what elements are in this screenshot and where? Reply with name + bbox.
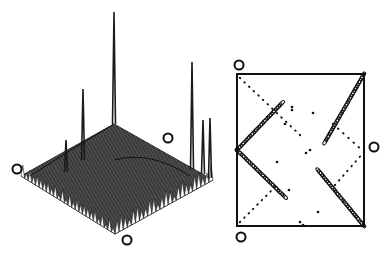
stacked-3d-plot bbox=[13, 12, 214, 245]
contour-peak bbox=[337, 179, 340, 182]
corner-marker-top-left bbox=[235, 61, 244, 70]
contour-peak bbox=[238, 220, 241, 223]
corner-marker-left bbox=[13, 165, 22, 174]
contour-peak bbox=[252, 90, 255, 93]
contour-peak bbox=[257, 94, 260, 97]
peak-spike bbox=[191, 62, 194, 170]
contour-peak bbox=[238, 76, 241, 79]
cross-peak bbox=[291, 106, 294, 109]
contour-peak bbox=[269, 190, 272, 193]
contour-peak bbox=[337, 127, 340, 130]
contour-peaks bbox=[234, 71, 366, 228]
contour-peak bbox=[260, 198, 263, 201]
corner-marker-right bbox=[164, 134, 173, 143]
cross-peak bbox=[309, 149, 312, 152]
contour-peak bbox=[298, 133, 301, 136]
contour-peak bbox=[243, 81, 246, 84]
contour-peak bbox=[350, 164, 353, 167]
contour-peak bbox=[358, 155, 361, 158]
contour-peak bbox=[354, 160, 357, 163]
contour-peak bbox=[280, 116, 283, 119]
cross-peak bbox=[299, 221, 302, 224]
contour-peak bbox=[294, 129, 297, 132]
corner-marker-bottom-left bbox=[237, 233, 246, 242]
figure-canvas bbox=[0, 0, 390, 257]
contour-peak bbox=[347, 136, 350, 139]
corner-marker-right bbox=[370, 143, 379, 152]
contour-peak bbox=[265, 194, 268, 197]
peak-spike bbox=[202, 120, 205, 174]
contour-peak bbox=[243, 216, 246, 219]
cross-peak bbox=[302, 224, 305, 227]
contour-peak bbox=[357, 146, 360, 149]
cross-peak bbox=[284, 123, 287, 126]
contour-peak bbox=[247, 212, 250, 215]
cross-peak bbox=[312, 112, 315, 115]
cross-peak bbox=[305, 152, 308, 155]
contour-peak bbox=[322, 138, 328, 145]
plane-hatching bbox=[21, 124, 213, 234]
cross-peak bbox=[291, 109, 294, 112]
contour-peak bbox=[289, 125, 292, 128]
contour-peak bbox=[251, 207, 254, 210]
contour-peak bbox=[346, 169, 349, 172]
contour-peak bbox=[352, 141, 355, 144]
peak-spike bbox=[209, 118, 212, 178]
contour-peak bbox=[248, 85, 251, 88]
contour-2d-plot bbox=[234, 61, 378, 242]
peak-spike bbox=[113, 12, 116, 124]
contour-peak bbox=[333, 183, 336, 186]
cross-peak bbox=[317, 211, 320, 214]
contour-peak bbox=[342, 132, 345, 135]
cross-peak bbox=[288, 189, 291, 192]
cross-peak bbox=[276, 161, 279, 164]
contour-peak bbox=[342, 174, 345, 177]
contour-peak bbox=[256, 203, 259, 206]
contour-peak bbox=[261, 98, 264, 101]
corner-marker-bottom bbox=[123, 236, 132, 245]
contour-peak bbox=[266, 103, 269, 106]
